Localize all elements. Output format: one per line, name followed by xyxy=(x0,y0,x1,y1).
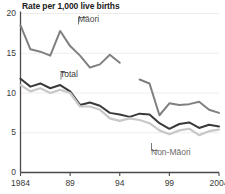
annotation-leaders xyxy=(61,18,158,151)
y-tick-label: 20 xyxy=(0,8,16,18)
y-tick-label: 15 xyxy=(0,48,16,58)
y-tick-label: 0 xyxy=(0,167,16,177)
plot-area xyxy=(0,0,225,194)
series-label-total: Total xyxy=(60,69,78,79)
series-label-maori: Māori xyxy=(78,14,99,24)
x-tick-label: 2004 xyxy=(202,178,225,188)
chart-container: Rate per 1,000 live births 05101520 1984… xyxy=(0,0,225,194)
x-tick-label: 1984 xyxy=(4,178,38,188)
x-tick-label: 94 xyxy=(103,178,137,188)
x-tick-label: 89 xyxy=(53,178,87,188)
y-tick-label: 5 xyxy=(0,127,16,137)
data-series xyxy=(21,25,220,135)
y-tick-label: 10 xyxy=(0,88,16,98)
series-line-maori-continued xyxy=(140,79,219,115)
x-tick-label: 99 xyxy=(152,178,186,188)
series-label-non-maori: Non-Māori xyxy=(151,147,191,157)
series-line-maori xyxy=(21,25,120,67)
